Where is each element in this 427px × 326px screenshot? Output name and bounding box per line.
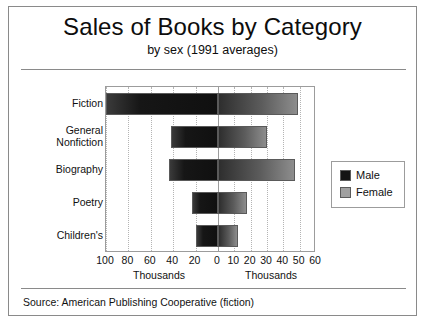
value-axis-ticks: 100806040200102030405060 xyxy=(105,254,315,268)
axis-tick-label: 60 xyxy=(309,254,321,267)
axis-tick-label: 20 xyxy=(244,254,256,267)
category-label: Fiction xyxy=(72,97,103,109)
axis-tick-label: 30 xyxy=(260,254,272,267)
axis-tick-label: 100 xyxy=(96,254,114,267)
bar-male[interactable] xyxy=(106,93,218,115)
chart-subtitle: by sex (1991 averages) xyxy=(9,42,416,58)
legend-label-female: Female xyxy=(356,186,393,199)
chart-legend[interactable]: Male Female xyxy=(331,161,405,208)
bar-female[interactable] xyxy=(218,126,267,148)
bar-male[interactable] xyxy=(169,159,218,181)
left-axis-caption: Thousands xyxy=(133,269,185,282)
legend-swatch-male-icon xyxy=(340,170,351,181)
bar-group xyxy=(106,159,314,181)
bar-female[interactable] xyxy=(218,192,247,214)
bar-male[interactable] xyxy=(196,225,218,247)
page-title: Sales of Books by Category xyxy=(9,13,416,41)
source-divider xyxy=(21,288,406,289)
bar-group xyxy=(106,225,314,247)
category-label: General Nonfiction xyxy=(56,124,103,148)
legend-item-female[interactable]: Female xyxy=(340,186,397,199)
bar-group xyxy=(106,192,314,214)
legend-swatch-female-icon xyxy=(340,187,351,198)
category-label: Poetry xyxy=(73,196,103,208)
bar-female[interactable] xyxy=(218,159,295,181)
axis-tick-label: 0 xyxy=(214,254,220,267)
plot-area xyxy=(105,86,315,252)
bar-group xyxy=(106,93,314,115)
category-label: Children's xyxy=(57,229,103,241)
source-note: Source: American Publishing Cooperative … xyxy=(23,295,254,309)
legend-item-male[interactable]: Male xyxy=(340,169,397,182)
chart-title-block: Sales of Books by Category by sex (1991 … xyxy=(9,13,416,58)
bar-group xyxy=(106,126,314,148)
right-axis-caption: Thousands xyxy=(245,269,297,282)
axis-tick-label: 60 xyxy=(144,254,156,267)
plot-wrapper xyxy=(105,86,315,252)
axis-tick-label: 20 xyxy=(189,254,201,267)
chart-figure: Sales of Books by Category by sex (1991 … xyxy=(8,6,417,316)
bar-female[interactable] xyxy=(218,225,238,247)
axis-tick-label: 80 xyxy=(122,254,134,267)
bar-male[interactable] xyxy=(171,126,218,148)
axis-tick-label: 50 xyxy=(293,254,305,267)
title-divider xyxy=(21,69,406,70)
axis-tick-label: 40 xyxy=(276,254,288,267)
bar-male[interactable] xyxy=(192,192,218,214)
bar-female[interactable] xyxy=(218,93,298,115)
category-label: Biography xyxy=(56,163,103,175)
category-axis-labels: FictionGeneral NonfictionBiographyPoetry… xyxy=(17,86,103,252)
axis-tick-label: 40 xyxy=(166,254,178,267)
axis-tick-label: 10 xyxy=(227,254,239,267)
legend-label-male: Male xyxy=(356,169,380,182)
